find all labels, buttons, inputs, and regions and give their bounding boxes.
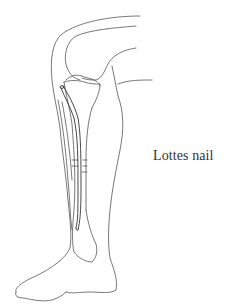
tibia-plateau <box>64 81 100 109</box>
back-leg-line <box>118 80 152 84</box>
tibia-shaft-right <box>86 108 92 210</box>
thigh-contour-upper <box>65 26 136 80</box>
lottes-nail-diagram: Lottes nail <box>0 0 228 308</box>
foot-contour <box>15 292 66 301</box>
knee-contour <box>82 48 136 80</box>
figure-label: Lottes nail <box>153 148 214 164</box>
